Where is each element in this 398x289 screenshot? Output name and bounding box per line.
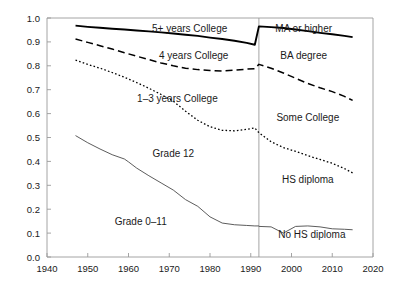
y-tick-label: 0.1: [27, 228, 40, 239]
y-tick-label: 0.2: [27, 204, 40, 215]
y-tick-label: 0.0: [27, 252, 40, 263]
chart-svg: 194019501960197019801990200020102020 0.0…: [0, 0, 398, 289]
series-annotation-some-college: Some College: [276, 112, 339, 123]
y-tick-label: 0.5: [27, 132, 40, 143]
y-tick-label: 1.0: [27, 13, 40, 24]
y-tick-label: 0.6: [27, 108, 40, 119]
series-annotation-hs-diploma: HS diploma: [282, 174, 334, 185]
x-tick-label: 1950: [77, 263, 98, 274]
y-tick-label: 0.7: [27, 84, 40, 95]
x-tick-label: 2010: [322, 263, 343, 274]
education-attainment-line-chart: 194019501960197019801990200020102020 0.0…: [0, 0, 398, 289]
x-tick-label: 1960: [118, 263, 139, 274]
x-tick-label: 2000: [281, 263, 302, 274]
series-annotation-no-hs-diploma: No HS diploma: [278, 229, 346, 240]
x-axis-tick-labels: 194019501960197019801990200020102020: [36, 263, 383, 274]
series-annotation-ba-degree: BA degree: [280, 50, 327, 61]
x-tick-label: 1940: [36, 263, 57, 274]
series-annotation-grade-0-11: Grade 0–11: [115, 216, 168, 227]
series-annotation-grade-12: Grade 12: [152, 148, 194, 159]
series-annotation-ma-or-higher: MA or higher: [275, 23, 332, 34]
x-tick-label: 1990: [240, 263, 261, 274]
y-tick-label: 0.9: [27, 36, 40, 47]
x-tick-label: 2020: [362, 263, 383, 274]
series-annotation-1-3-years-college: 1–3 years College: [137, 93, 218, 104]
y-tick-label: 0.3: [27, 180, 40, 191]
chart-background: [0, 0, 398, 289]
y-tick-label: 0.8: [27, 60, 40, 71]
y-tick-label: 0.4: [27, 156, 40, 167]
series-annotation-5-plus-years-college: 5+ years College: [152, 23, 228, 34]
x-tick-label: 1980: [199, 263, 220, 274]
x-tick-label: 1970: [159, 263, 180, 274]
series-annotation-4-years-college: 4 years College: [159, 50, 229, 61]
